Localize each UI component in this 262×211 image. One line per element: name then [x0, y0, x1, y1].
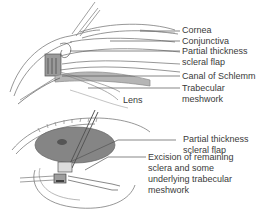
label-conjunctiva: Conjunctiva — [182, 36, 229, 46]
label-lens: Lens — [123, 95, 143, 105]
label-excision-line3: underlying trabecular — [148, 174, 232, 184]
bottom-surgical-view — [12, 110, 150, 208]
label-scleral-flap-line1: Partial thickness — [182, 46, 248, 56]
label-cornea: Cornea — [182, 25, 212, 35]
label-excision-line1: Excision of remaining — [148, 152, 234, 162]
label-trabecular-line2: meshwork — [182, 94, 223, 104]
label-trabecular-line1: Trabecular — [182, 83, 225, 93]
top-cross-section — [10, 2, 180, 108]
label-scleral-flap-line2: scleral flap — [182, 57, 225, 67]
label-partial-flap-line1: Partial thickness — [183, 134, 249, 144]
label-excision-line4: meshwork — [148, 185, 189, 195]
label-canal-of-schlemm: Canal of Schlemm — [182, 71, 256, 81]
label-excision-line2: sclera and some — [148, 163, 214, 173]
